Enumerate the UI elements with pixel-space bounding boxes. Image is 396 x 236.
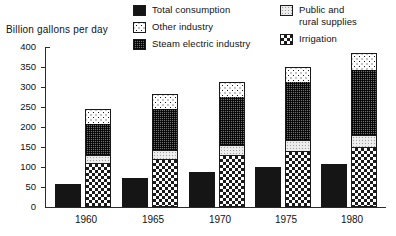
y-axis-tick-label: 100 bbox=[4, 162, 36, 172]
stack-segment-irrigation-1960 bbox=[86, 164, 110, 207]
bar-total-consumption-1980 bbox=[321, 164, 347, 207]
water-use-bar-chart: Total consumption Other industry Steam e… bbox=[0, 0, 396, 236]
y-axis-tick-mark bbox=[41, 107, 45, 108]
y-axis-tick-label: 300 bbox=[4, 82, 36, 92]
y-axis-tick-mark bbox=[41, 147, 45, 148]
y-axis-tick-mark bbox=[41, 127, 45, 128]
stack-segment-other-industry-1975 bbox=[286, 68, 310, 82]
y-axis-tick-label: 150 bbox=[4, 142, 36, 152]
stacked-bar-1980 bbox=[351, 53, 377, 207]
stack-segment-public-and-rural-supplies-1965 bbox=[153, 151, 177, 160]
stack-segment-public-and-rural-supplies-1975 bbox=[286, 141, 310, 152]
x-axis-tick-label-1965: 1965 bbox=[123, 214, 183, 225]
plot-area: 4003503002502001501005001960196519701975… bbox=[0, 0, 396, 236]
y-axis-tick-mark bbox=[41, 67, 45, 68]
y-axis-tick-label: 250 bbox=[4, 102, 36, 112]
y-axis-tick-label: 350 bbox=[4, 62, 36, 72]
y-axis-tick-mark bbox=[41, 87, 45, 88]
stack-segment-other-industry-1980 bbox=[352, 54, 376, 70]
stack-segment-irrigation-1970 bbox=[220, 156, 244, 207]
stacked-bar-1960 bbox=[85, 109, 111, 207]
stack-segment-public-and-rural-supplies-1980 bbox=[352, 136, 376, 148]
stack-segment-irrigation-1965 bbox=[153, 160, 177, 207]
stack-segment-steam-electric-industry-1980 bbox=[352, 70, 376, 136]
y-axis-tick-mark bbox=[41, 167, 45, 168]
bar-total-consumption-1960 bbox=[55, 184, 81, 207]
stacked-bar-1970 bbox=[219, 82, 245, 207]
y-axis-tick-label: 50 bbox=[4, 182, 36, 192]
stack-segment-other-industry-1960 bbox=[86, 110, 110, 124]
bar-total-consumption-1975 bbox=[255, 167, 281, 207]
x-axis-tick-label-1980: 1980 bbox=[322, 214, 382, 225]
stack-segment-steam-electric-industry-1960 bbox=[86, 124, 110, 156]
stacked-bar-1965 bbox=[152, 94, 178, 207]
bar-total-consumption-1970 bbox=[189, 172, 215, 207]
bar-total-consumption-1965 bbox=[122, 178, 148, 207]
x-axis-line bbox=[45, 207, 386, 208]
stack-segment-public-and-rural-supplies-1960 bbox=[86, 156, 110, 164]
stack-segment-irrigation-1980 bbox=[352, 148, 376, 207]
x-axis-tick-label-1960: 1960 bbox=[56, 214, 116, 225]
stack-segment-irrigation-1975 bbox=[286, 152, 310, 207]
stack-segment-steam-electric-industry-1970 bbox=[220, 97, 244, 146]
stack-segment-other-industry-1965 bbox=[153, 95, 177, 109]
y-axis-tick-label: 200 bbox=[4, 122, 36, 132]
stack-segment-public-and-rural-supplies-1970 bbox=[220, 146, 244, 156]
x-axis-tick-label-1970: 1970 bbox=[190, 214, 250, 225]
y-axis-tick-label: 400 bbox=[4, 42, 36, 52]
stack-segment-steam-electric-industry-1965 bbox=[153, 109, 177, 151]
x-axis-tick-label-1975: 1975 bbox=[256, 214, 316, 225]
y-axis-top-cap bbox=[45, 47, 50, 48]
stack-segment-steam-electric-industry-1975 bbox=[286, 82, 310, 141]
y-axis-line bbox=[45, 47, 46, 208]
y-axis-tick-mark bbox=[41, 187, 45, 188]
y-axis-tick-label: 0 bbox=[4, 202, 36, 212]
stacked-bar-1975 bbox=[285, 67, 311, 207]
stack-segment-other-industry-1970 bbox=[220, 83, 244, 97]
